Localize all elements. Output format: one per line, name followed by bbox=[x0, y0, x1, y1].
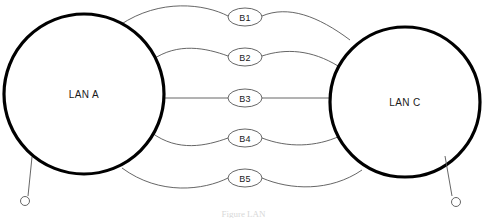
link-b4-right bbox=[262, 136, 340, 145]
bridge-b3[interactable]: B3 bbox=[228, 89, 262, 107]
figure-caption: Figure LAN bbox=[0, 209, 487, 218]
node-lan-a[interactable]: LAN A bbox=[4, 14, 164, 174]
link-b5-left bbox=[122, 168, 228, 188]
lan-c-stub-endpoint-icon bbox=[452, 198, 461, 207]
bridge-b3-label: B3 bbox=[239, 94, 250, 104]
node-lan-c[interactable]: LAN C bbox=[330, 27, 480, 177]
link-b2-left bbox=[152, 48, 228, 60]
bridge-b4-label: B4 bbox=[239, 134, 250, 144]
lan-a-stub bbox=[21, 157, 33, 206]
lan-a-stub-endpoint-icon bbox=[21, 197, 30, 206]
bridge-nodes: B1 B2 B3 B4 B5 bbox=[228, 8, 262, 187]
lan-c-label: LAN C bbox=[389, 97, 420, 108]
bridge-b2[interactable]: B2 bbox=[228, 48, 262, 66]
link-b1-right bbox=[262, 12, 350, 40]
bridge-b2-label: B2 bbox=[239, 53, 250, 63]
link-b4-left bbox=[152, 133, 228, 146]
link-b2-right bbox=[262, 51, 338, 66]
lan-a-label: LAN A bbox=[69, 89, 99, 100]
lan-a-stub-line bbox=[28, 157, 32, 196]
network-diagram: LAN A LAN C B1 B2 bbox=[0, 0, 487, 218]
bridge-b5[interactable]: B5 bbox=[228, 169, 262, 187]
bridge-b4[interactable]: B4 bbox=[228, 129, 262, 147]
link-b5-right bbox=[262, 170, 362, 187]
diagram-canvas: LAN A LAN C B1 B2 bbox=[0, 0, 487, 218]
bridge-b1-label: B1 bbox=[239, 13, 250, 23]
bridge-b1[interactable]: B1 bbox=[228, 8, 262, 26]
link-b1-left bbox=[120, 6, 228, 25]
bridge-b5-label: B5 bbox=[239, 174, 250, 184]
